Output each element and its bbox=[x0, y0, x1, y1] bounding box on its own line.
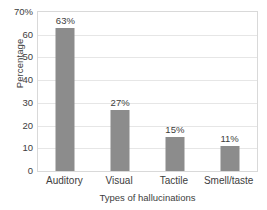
bar-value-label: 15% bbox=[165, 124, 184, 135]
y-axis-tick-label: 70% bbox=[14, 6, 33, 17]
bar-value-label: 11% bbox=[220, 133, 238, 144]
bar-value-label: 27% bbox=[111, 97, 130, 108]
y-axis-tick-label: 30 bbox=[22, 96, 33, 107]
bar-slot: 11% bbox=[202, 12, 257, 171]
y-axis-tick-label: 60 bbox=[22, 28, 33, 39]
y-axis-tick-labels: 010203040506070% bbox=[0, 0, 35, 210]
x-axis-title: Types of hallucinations bbox=[37, 192, 258, 203]
y-axis-tick-label: 10 bbox=[22, 142, 33, 153]
plot-area: 63%27%15%11% bbox=[37, 11, 258, 172]
bar[interactable] bbox=[111, 110, 130, 171]
x-axis-tick-label: Visual bbox=[106, 175, 133, 186]
bar[interactable] bbox=[165, 137, 184, 171]
bar-value-label: 63% bbox=[56, 15, 75, 26]
bar-slot: 63% bbox=[38, 12, 93, 171]
y-axis-tick-label: 40 bbox=[22, 74, 33, 85]
bars-group: 63%27%15%11% bbox=[38, 12, 257, 171]
bar-slot: 27% bbox=[93, 12, 148, 171]
y-axis-tick-label: 20 bbox=[22, 119, 33, 130]
bar[interactable] bbox=[220, 146, 239, 171]
y-axis-tick-label: 0 bbox=[28, 165, 33, 176]
x-axis-tick-label: Smell/taste bbox=[204, 175, 253, 186]
x-axis-tick-label: Auditory bbox=[46, 175, 83, 186]
x-axis-tick-labels: AuditoryVisualTactileSmell/taste bbox=[37, 175, 258, 191]
bar-chart-figure: Percentage 010203040506070% 63%27%15%11%… bbox=[0, 0, 267, 210]
bar[interactable] bbox=[56, 28, 75, 171]
x-axis-tick-label: Tactile bbox=[160, 175, 188, 186]
bar-slot: 15% bbox=[148, 12, 203, 171]
y-axis-tick-label: 50 bbox=[22, 51, 33, 62]
